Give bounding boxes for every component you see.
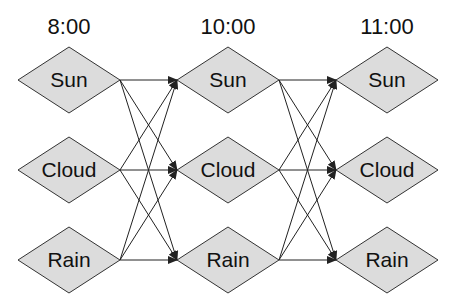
node-label: Sun [50, 68, 87, 91]
node-label: Rain [365, 248, 408, 271]
node-800-rain: Rain [18, 227, 120, 293]
node-1100-cloud: Cloud [336, 137, 438, 203]
state-nodes: SunCloudRainSunCloudRainSunCloudRain [18, 47, 438, 293]
diagram-canvas: SunCloudRainSunCloudRainSunCloudRain [0, 0, 456, 307]
node-1000-cloud: Cloud [177, 137, 279, 203]
node-1000-sun: Sun [177, 47, 279, 113]
node-1000-rain: Rain [177, 227, 279, 293]
node-label: Cloud [360, 158, 415, 181]
node-label: Rain [206, 248, 249, 271]
node-800-sun: Sun [18, 47, 120, 113]
node-1100-rain: Rain [336, 227, 438, 293]
node-1100-sun: Sun [336, 47, 438, 113]
node-800-cloud: Cloud [18, 137, 120, 203]
node-label: Cloud [201, 158, 256, 181]
node-label: Rain [47, 248, 90, 271]
node-label: Cloud [42, 158, 97, 181]
node-label: Sun [368, 68, 405, 91]
node-label: Sun [209, 68, 246, 91]
weather-trellis-diagram: 8:00 10:00 11:00 SunCloudRainSunCloudRai… [0, 0, 456, 307]
